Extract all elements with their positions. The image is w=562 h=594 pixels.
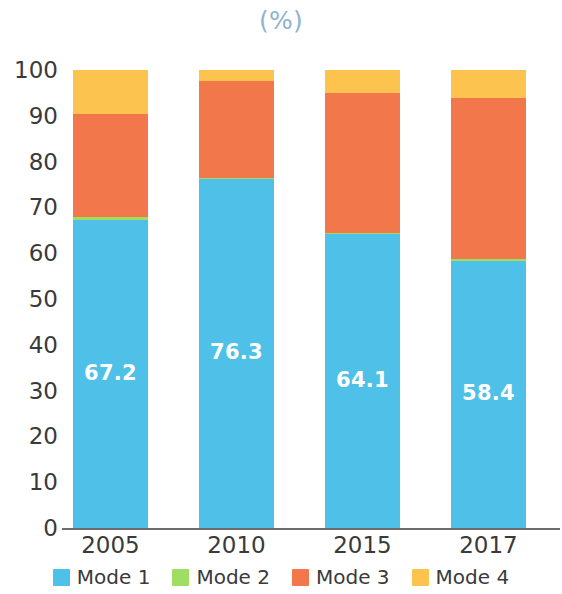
legend-label: Mode 4 [436,565,510,589]
bar-group[interactable]: 64.1 [325,70,400,528]
bar-value-label: 64.1 [325,368,400,392]
legend-label: Mode 1 [77,565,151,589]
chart-unit-label: (%) [0,6,562,36]
y-axis-tick-label: 10 [0,472,58,492]
legend-item[interactable]: Mode 3 [292,565,390,589]
legend-item[interactable]: Mode 4 [412,565,510,589]
stacked-bar[interactable]: 67.2 [73,70,148,528]
bar-segment[interactable] [451,70,526,97]
x-axis: 2005201020152017 [62,532,562,566]
bar-value-label: 67.2 [73,361,148,385]
x-axis-tick-label: 2010 [199,532,274,558]
x-axis-line [62,528,560,530]
bar-segment[interactable]: 67.2 [73,220,148,528]
y-axis: 0102030405060708090100 [0,70,58,528]
y-axis-tick-label: 50 [0,289,58,309]
bar-segment[interactable] [325,70,400,93]
bar-segment[interactable] [199,81,274,177]
bar-segment[interactable] [451,98,526,260]
y-axis-tick-label: 30 [0,381,58,401]
bar-segment[interactable] [199,70,274,81]
bar-segment[interactable]: 64.1 [325,234,400,528]
y-axis-tick-label: 0 [0,518,58,538]
bar-segment[interactable]: 58.4 [451,261,526,528]
y-axis-tick-label: 20 [0,426,58,446]
bar-segment[interactable] [451,259,526,260]
y-axis-tick-label: 90 [0,106,58,126]
bar-segment[interactable]: 76.3 [199,179,274,528]
bar-value-label: 76.3 [199,340,274,364]
y-axis-tick-label: 70 [0,197,58,217]
bar-segment[interactable] [73,70,148,114]
stacked-bar[interactable]: 58.4 [451,70,526,528]
bar-segment[interactable] [73,114,148,217]
y-axis-tick-label: 40 [0,335,58,355]
bar-segment[interactable] [325,233,400,234]
y-axis-tick-label: 80 [0,152,58,172]
legend-color-swatch [292,569,309,586]
legend-item[interactable]: Mode 2 [172,565,270,589]
legend-label: Mode 2 [196,565,270,589]
bar-segment[interactable] [73,217,148,221]
legend-item[interactable]: Mode 1 [53,565,151,589]
x-axis-tick-label: 2015 [325,532,400,558]
legend-color-swatch [53,569,70,586]
bar-group[interactable]: 76.3 [199,70,274,528]
y-axis-tick-label: 60 [0,243,58,263]
bar-series-container: 67.276.364.158.4 [62,70,562,528]
bar-segment[interactable] [199,178,274,179]
legend-color-swatch [172,569,189,586]
y-axis-tick-label: 100 [0,60,58,80]
legend-color-swatch [412,569,429,586]
stacked-bar[interactable]: 64.1 [325,70,400,528]
x-axis-tick-label: 2005 [73,532,148,558]
bar-group[interactable]: 67.2 [73,70,148,528]
bar-group[interactable]: 58.4 [451,70,526,528]
plot-area: 0102030405060708090100 67.276.364.158.4 … [0,70,562,532]
stacked-bar[interactable]: 76.3 [199,70,274,528]
chart-title-block: (%) [0,0,562,36]
legend-label: Mode 3 [316,565,390,589]
bar-value-label: 58.4 [451,381,526,405]
chart-legend: Mode 1Mode 2Mode 3Mode 4 [0,562,562,592]
x-axis-tick-label: 2017 [451,532,526,558]
bar-segment[interactable] [325,93,400,233]
